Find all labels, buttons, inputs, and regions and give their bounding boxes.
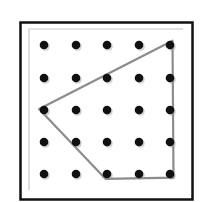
- peg: [103, 106, 112, 115]
- peg: [135, 74, 144, 83]
- peg: [135, 170, 144, 179]
- peg: [72, 138, 81, 147]
- peg: [135, 106, 144, 115]
- peg: [103, 41, 112, 50]
- peg: [103, 74, 112, 83]
- peg: [166, 138, 175, 147]
- peg: [72, 170, 81, 179]
- geoboard: [0, 0, 206, 202]
- peg: [166, 170, 175, 179]
- peg: [166, 74, 175, 83]
- peg: [40, 138, 49, 147]
- peg: [166, 41, 175, 50]
- peg: [40, 106, 49, 115]
- peg: [72, 106, 81, 115]
- peg: [72, 74, 81, 83]
- peg: [40, 170, 49, 179]
- peg: [103, 170, 112, 179]
- peg: [135, 41, 144, 50]
- peg: [135, 138, 144, 147]
- peg: [40, 74, 49, 83]
- peg: [40, 41, 49, 50]
- peg: [72, 41, 81, 50]
- peg: [166, 106, 175, 115]
- peg: [103, 138, 112, 147]
